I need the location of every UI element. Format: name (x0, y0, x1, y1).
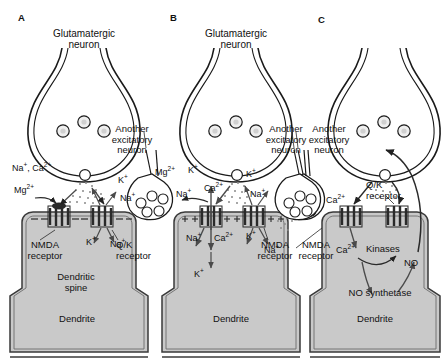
panel-a-presynaptic-label: Glutamatergic neuron (30, 28, 138, 50)
presynaptic-line2-a: neuron (68, 39, 99, 50)
nmda-line2-c: receptor (299, 250, 334, 261)
another-line3-a: neuron (117, 144, 147, 155)
no-label-c: NO (404, 258, 430, 269)
another-neuron-label-c: Another excitatory neuron (296, 124, 362, 156)
ion-na-qk-out-b: Na+ (250, 190, 265, 200)
another-line1-c: Another (312, 123, 345, 134)
ion-na-outside-a: Na+ (120, 194, 135, 204)
ion-ca-out-b: Ca2+ (204, 184, 223, 194)
another-line1-a: Another (115, 123, 148, 134)
qk-line2-a: receptor (116, 250, 151, 261)
panel-letter-a: A (18, 12, 25, 23)
nmda-line1-a: NMDA (31, 239, 59, 250)
ion-ca-out-c: Ca2+ (326, 196, 345, 206)
nmda-receptor-label-c: NMDA receptor (290, 240, 342, 261)
panel-b-presynaptic-label: Glutamatergic neuron (182, 28, 290, 50)
another-neuron-label-a: Another excitatory neuron (96, 124, 168, 156)
panel-a-graphics (10, 48, 173, 357)
qk-receptor-label-a: Q/K receptor (116, 240, 162, 261)
ion-na-ca-a: Na+, Ca2+ (12, 164, 51, 174)
another-line3-c: neuron (314, 144, 344, 155)
qk-receptor-label-c: Q/K receptor (366, 180, 422, 201)
ion-k-outside-a: K+ (118, 176, 128, 186)
no-synthetase-label-c: NO synthetase (330, 288, 430, 299)
panel-letter-b: B (170, 12, 177, 23)
another-line2-a: excitatory (112, 134, 153, 145)
presynaptic-line2-b: neuron (220, 39, 251, 50)
ion-ca-in-b: Ca2+ (214, 234, 233, 244)
ion-k-out-b: K+ (188, 166, 198, 176)
dendrite-label-a: Dendrite (42, 314, 112, 325)
dendrite-label-c: Dendrite (340, 314, 410, 325)
mg-block-arrow-a (35, 198, 56, 203)
ion-mg-a: Mg2+ (14, 186, 34, 196)
ion-k-deep-b: K+ (194, 270, 204, 280)
nmda-line2-a: receptor (28, 250, 63, 261)
another-line2-c: excitatory (309, 134, 350, 145)
figure-canvas: A Glutamatergic neuron Na+, Ca2+ Mg2+ K+… (0, 0, 444, 364)
qk-line1-a: Q/K (116, 239, 132, 250)
kinases-label-c: Kinases (366, 244, 418, 255)
nmda-receptor-label-a: NMDA receptor (16, 240, 74, 261)
spine-line1-a: Dendritic (57, 271, 95, 282)
spine-line2-a: spine (65, 282, 88, 293)
ion-k-inside-a: K+ (86, 238, 96, 248)
presynaptic-line1-b: Glutamatergic (205, 28, 267, 39)
dendritic-spine-label-a: Dendritic spine (38, 272, 114, 293)
ion-na-in-b: Na+ (186, 234, 201, 244)
nmda-line1-c: NMDA (302, 239, 330, 250)
dendrite-label-b: Dendrite (196, 314, 266, 325)
presynaptic-line1-a: Glutamatergic (53, 28, 115, 39)
another-excitatory-bouton-a (127, 150, 172, 220)
nmda-line2-b: receptor (258, 250, 293, 261)
neurotransmitter-cloud-a (69, 182, 105, 204)
presynaptic-terminal-b (180, 48, 292, 182)
ion-na-out-left-b: Na+ (176, 190, 191, 200)
nmda-line1-b: NMDA (261, 239, 289, 250)
ion-k-qk-out-b: K+ (246, 170, 256, 180)
ion-mg-b: Mg2+ (155, 168, 175, 178)
qk-line2-c: receptor (366, 190, 401, 201)
qk-line1-c: Q/K (366, 179, 382, 190)
panel-letter-c: C (318, 14, 325, 25)
transmitter-arrows-a (60, 190, 104, 205)
presynaptic-terminal-c (328, 48, 440, 182)
